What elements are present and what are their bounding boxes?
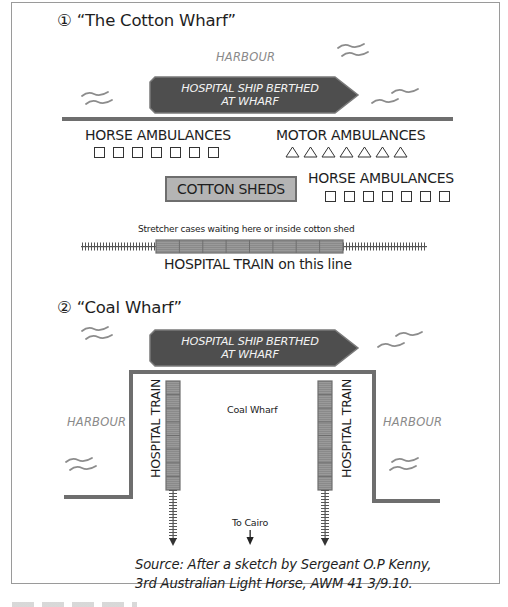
hospital-train-label-left: HOSPITAL TRAIN: [148, 379, 163, 478]
number-1-icon: ①: [57, 11, 72, 30]
harbour-label-left: HARBOUR: [67, 415, 126, 429]
hospital-train-horizontal: [156, 240, 343, 253]
wharf-edge-line: [62, 117, 453, 121]
to-cairo-label: To Cairo: [232, 517, 268, 528]
section-1-title: ① “The Cotton Wharf”: [57, 11, 236, 30]
cropped-caption: [12, 602, 137, 607]
source-line-2: 3rd Australian Light Horse, AWM 41 3/9.1…: [135, 574, 431, 593]
motor-ambulances-label: MOTOR AMBULANCES: [276, 127, 425, 143]
hospital-train-vertical-left: [166, 381, 180, 546]
harbour-label: HARBOUR: [216, 50, 275, 64]
horse-ambulances-label-left: HORSE AMBULANCES: [85, 127, 231, 143]
hospital-train-label-right: HOSPITAL TRAIN: [339, 379, 354, 478]
coal-wharf-label: Coal Wharf: [227, 404, 277, 415]
stretcher-note: Stretcher cases waiting here or inside c…: [138, 224, 354, 234]
hospital-train-vertical-right: [318, 381, 332, 546]
hospital-ship-label: HOSPITAL SHIP BERTHED AT WHARF: [150, 82, 350, 108]
horse-ambulances-label-right: HORSE AMBULANCES: [308, 170, 454, 186]
hospital-ship-label-2: HOSPITAL SHIP BERTHED AT WHARF: [150, 335, 350, 361]
ship-label-line-2: AT WHARF: [150, 348, 350, 361]
ship-label-line-1: HOSPITAL SHIP BERTHED: [150, 82, 350, 95]
ship-label-line-2: AT WHARF: [150, 95, 350, 108]
number-2-icon: ②: [57, 298, 72, 317]
source-citation: Source: After a sketch by Sergeant O.P K…: [135, 555, 431, 593]
cotton-sheds-box: COTTON SHEDS: [165, 176, 297, 202]
section-2-title-text: “Coal Wharf”: [77, 298, 182, 317]
horse-ambulance-icons-left: [95, 148, 219, 158]
coal-wharf-outline: [64, 372, 440, 501]
horse-ambulance-icons-right: [326, 192, 450, 202]
arrow-down-icon: [247, 530, 254, 545]
harbour-label-right: HARBOUR: [383, 415, 442, 429]
cotton-sheds-label: COTTON SHEDS: [177, 181, 285, 197]
ship-label-line-1: HOSPITAL SHIP BERTHED: [150, 335, 350, 348]
section-1-title-text: “The Cotton Wharf”: [77, 11, 236, 30]
section-2-title: ② “Coal Wharf”: [57, 298, 182, 317]
hospital-train-line-label: HOSPITAL TRAIN on this line: [164, 256, 352, 272]
source-line-1: Source: After a sketch by Sergeant O.P K…: [135, 555, 431, 574]
motor-ambulance-icons: [286, 147, 407, 157]
